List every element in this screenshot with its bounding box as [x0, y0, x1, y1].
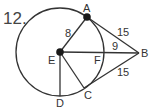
segment-cb — [84, 53, 139, 88]
label-f: F — [94, 54, 101, 66]
length-ab: 15 — [117, 26, 129, 38]
label-e: E — [48, 54, 55, 66]
label-b: B — [141, 47, 148, 59]
segment-eb — [60, 52, 139, 53]
length-fb: 9 — [112, 40, 118, 52]
geometry-figure: 12. A B C D E F 8 15 9 15 — [0, 0, 154, 111]
problem-number: 12. — [3, 9, 27, 28]
label-d: D — [56, 97, 64, 109]
length-cb: 15 — [117, 66, 129, 78]
circle-tangent-diagram: 12. A B C D E F 8 15 9 15 — [0, 0, 154, 111]
label-c: C — [84, 89, 92, 101]
segment-ec — [60, 52, 84, 88]
label-a: A — [83, 2, 91, 14]
point-a-dot — [83, 13, 91, 21]
length-ea: 8 — [65, 27, 71, 39]
point-e-dot — [56, 48, 64, 56]
